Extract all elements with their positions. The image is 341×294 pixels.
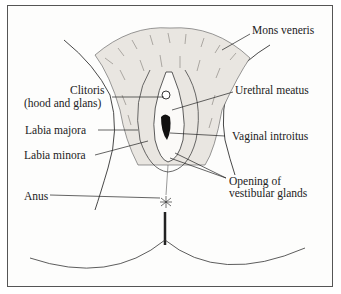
label-clitoris-detail: (hood and glans): [24, 97, 101, 109]
label-urethral-meatus: Urethral meatus: [235, 84, 309, 96]
label-vestibular-glands: Opening of: [229, 175, 281, 187]
label-vestibular-glands-line2: vestibular glands: [229, 187, 307, 199]
label-clitoris: Clitoris: [70, 84, 105, 96]
label-labia-majora: Labia majora: [25, 124, 86, 136]
anatomy-drawing: [0, 0, 341, 294]
label-vaginal-introitus: Vaginal introitus: [232, 130, 308, 142]
label-labia-minora: Labia minora: [24, 149, 86, 161]
label-anus: Anus: [24, 190, 48, 202]
label-mons-veneris: Mons veneris: [252, 24, 314, 36]
